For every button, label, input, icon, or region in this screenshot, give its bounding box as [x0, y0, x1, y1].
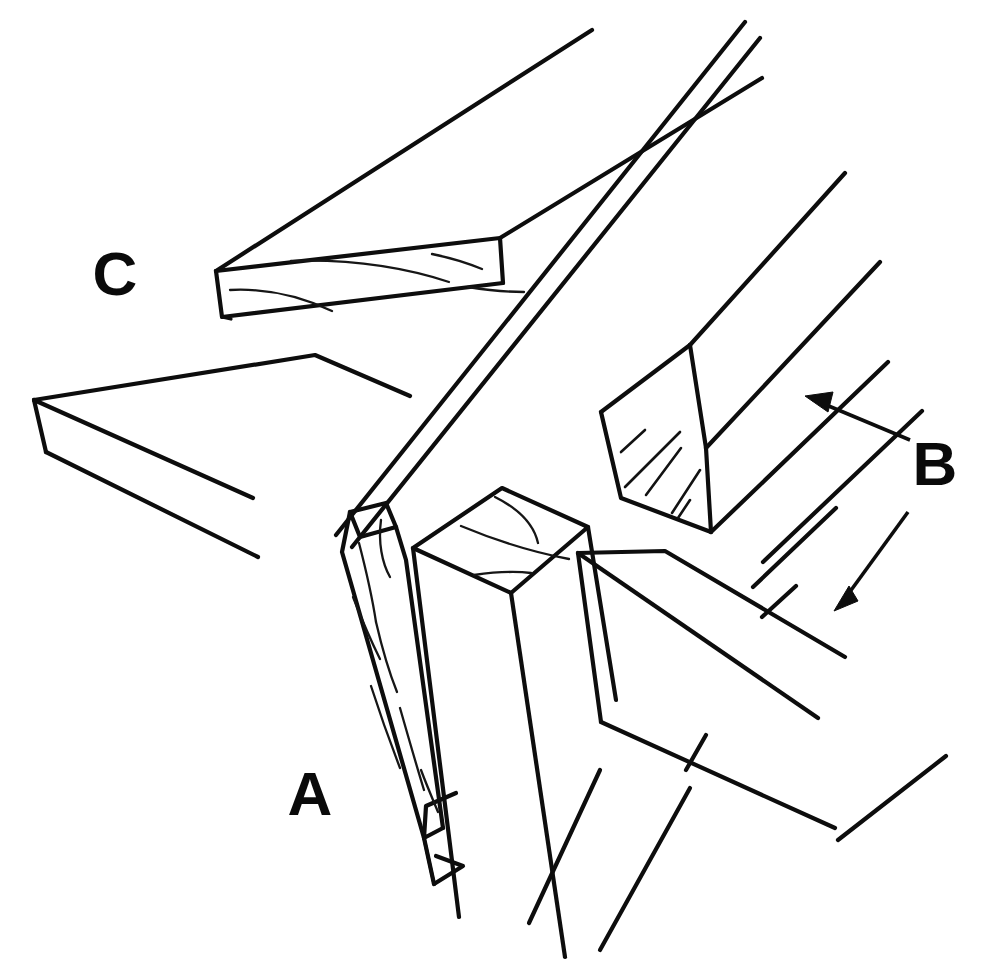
c-board-left-end-bottom — [222, 317, 231, 319]
figure-root: A B C — [0, 0, 990, 971]
label-b: B — [913, 429, 958, 498]
joint-drawing-canvas: A B C — [0, 0, 990, 971]
c-board-right-end-edge — [500, 238, 503, 283]
label-a: A — [288, 759, 333, 828]
label-c: C — [93, 239, 138, 308]
